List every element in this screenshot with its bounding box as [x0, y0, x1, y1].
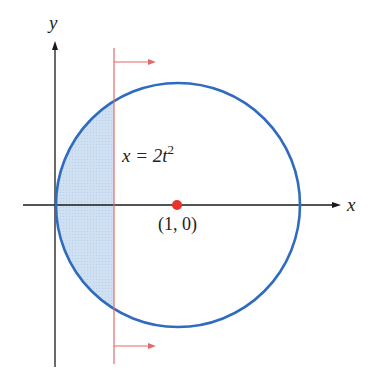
center-point [172, 200, 182, 210]
x-axis-label: x [346, 194, 356, 215]
arrow-right-icon [148, 343, 156, 349]
equation-main: x = 2t [121, 145, 168, 166]
x-axis-arrow-icon [332, 202, 341, 208]
y-axis-arrow-icon [52, 41, 58, 50]
diagram-canvas: y x (1, 0) x = 2t2 [0, 0, 370, 383]
vertical-line [114, 48, 156, 364]
y-axis-label: y [47, 12, 58, 33]
center-label: (1, 0) [158, 214, 197, 235]
equation-exponent: 2 [168, 142, 175, 157]
line-equation-label: x = 2t2 [121, 142, 174, 166]
shaded-region [55, 80, 114, 340]
arrow-right-icon [148, 59, 156, 65]
